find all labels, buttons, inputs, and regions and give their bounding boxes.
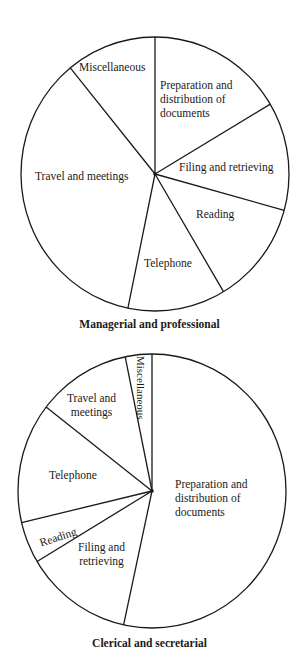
slice-label-line: distribution of <box>175 491 248 505</box>
slice-label-filing: Filing and retrieving <box>78 540 125 568</box>
slice-label-misc: Miscellaneous <box>79 61 145 74</box>
pie-charts-canvas <box>0 0 299 666</box>
slice-label-line: retrieving <box>78 554 125 568</box>
slice-label-misc: Miscellaneous <box>134 356 147 420</box>
slice-label-telephone: Telephone <box>49 469 97 482</box>
slice-label-telephone: Telephone <box>144 257 192 270</box>
slice-label-reading: Reading <box>196 208 234 221</box>
pie-center-dot <box>150 489 154 493</box>
slice-label-preparation: Preparation and distribution of document… <box>160 78 233 120</box>
slice-label-travel: Travel and meetings <box>35 170 128 183</box>
slice-label-line: documents <box>160 106 233 120</box>
chart-title-clerical: Clerical and secretarial <box>0 637 299 649</box>
slice-label-line: Preparation and <box>160 78 233 92</box>
slice-label-line: distribution of <box>160 92 233 106</box>
slice-label-line: Filing and <box>78 540 125 554</box>
slice-label-filing: Filing and retrieving <box>179 161 274 174</box>
slice-label-line: Preparation and <box>175 477 248 491</box>
slice-label-travel: Travel and meetings <box>67 391 116 419</box>
slice-label-preparation: Preparation and distribution of document… <box>175 477 248 519</box>
slice-label-line: documents <box>175 505 248 519</box>
pie-center-dot <box>153 172 157 176</box>
slice-label-line: Travel and <box>67 391 116 405</box>
chart-title-managerial: Managerial and professional <box>0 318 299 330</box>
slice-label-line: meetings <box>67 405 116 419</box>
